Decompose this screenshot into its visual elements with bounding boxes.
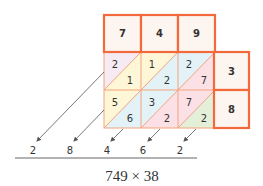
multiplicand-digit-0: 7: [119, 28, 126, 39]
cell-r1-c0-tens: 5: [112, 97, 118, 108]
cell-r1-c0-ones: 6: [127, 113, 133, 124]
cell-r0-c2-ones: 7: [201, 75, 207, 86]
problem-caption: 749 × 38: [105, 168, 158, 184]
cell-r0-c1-ones: 2: [164, 75, 170, 86]
arrow-icon: [38, 72, 104, 140]
result-digit-3: 6: [140, 145, 146, 156]
result-digit-0: 2: [30, 145, 36, 156]
arrow-icon: [112, 129, 123, 140]
cell-r0-c1-tens: 1: [149, 59, 155, 70]
result-digit-2: 4: [104, 145, 110, 156]
multiplicand-digit-2: 9: [193, 28, 200, 39]
arrow-icon: [185, 129, 196, 140]
arrow-icon: [149, 129, 160, 140]
result-digit-4: 2: [177, 145, 183, 156]
result-row: 2 8 4 6 2: [15, 145, 197, 158]
multiplier-digit-1: 8: [228, 104, 235, 115]
cell-r0-c0-ones: 1: [127, 75, 133, 86]
multiplier-digit-0: 3: [228, 66, 235, 77]
multiplier-header: 3 8: [214, 52, 249, 128]
result-digit-1: 8: [67, 145, 73, 156]
arrow-icon: [75, 110, 104, 140]
lattice-grid: 2 1 1 2 2 7 5 6 3 2 7 2: [104, 52, 215, 128]
cell-r1-c2-ones: 2: [201, 113, 207, 124]
cell-r0-c0-tens: 2: [112, 59, 118, 70]
cell-r1-c1-tens: 3: [149, 97, 155, 108]
cell-r1-c1-ones: 2: [164, 113, 170, 124]
multiplicand-digit-1: 4: [156, 28, 163, 39]
multiplicand-header: 7 4 9: [104, 15, 215, 52]
lattice-multiplication-diagram: 2 1 1 2 2 7 5 6 3 2 7 2 7 4 9 3 8 2 8: [0, 0, 263, 186]
cell-r1-c2-tens: 7: [186, 97, 192, 108]
cell-r0-c2-tens: 2: [186, 59, 192, 70]
